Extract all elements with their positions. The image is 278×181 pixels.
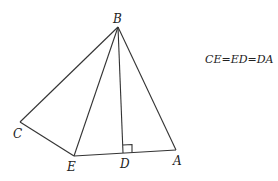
label-d: D bbox=[119, 157, 130, 171]
geometry-figure: B C E D A CE=ED=DA bbox=[0, 0, 278, 181]
segment-be bbox=[74, 27, 118, 156]
segment-ea bbox=[74, 150, 176, 156]
label-a: A bbox=[172, 154, 182, 168]
given-equation: CE=ED=DA bbox=[205, 53, 274, 66]
label-b: B bbox=[112, 12, 122, 26]
segment-ce bbox=[20, 122, 74, 156]
segment-bd bbox=[118, 27, 123, 153]
segment-ba bbox=[118, 27, 176, 150]
label-c: C bbox=[13, 127, 22, 141]
label-e: E bbox=[66, 160, 76, 174]
segment-bc bbox=[20, 27, 118, 122]
right-angle-mark bbox=[123, 145, 132, 153]
